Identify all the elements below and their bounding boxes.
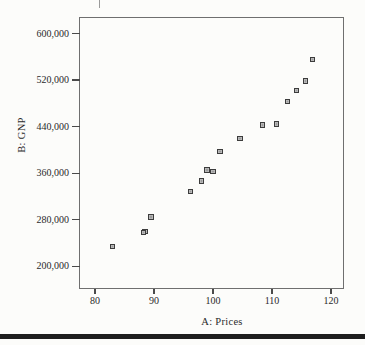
x-tick-mark bbox=[153, 289, 154, 295]
data-point-marker bbox=[110, 244, 115, 249]
x-tick-label: 110 bbox=[252, 295, 292, 307]
x-tick-mark bbox=[212, 289, 213, 295]
y-tick-label: 600,000 bbox=[16, 28, 69, 40]
data-point-marker bbox=[204, 167, 209, 172]
data-point-marker bbox=[210, 169, 215, 174]
x-tick-label: 90 bbox=[134, 295, 174, 307]
y-tick-mark bbox=[72, 79, 80, 80]
y-tick-label: 360,000 bbox=[16, 167, 69, 179]
y-tick-label: 200,000 bbox=[16, 260, 69, 272]
data-point-marker bbox=[199, 178, 204, 183]
data-point-marker bbox=[217, 149, 222, 154]
data-point-marker bbox=[237, 136, 242, 141]
y-tick-mark bbox=[72, 173, 80, 174]
y-tick-label: 520,000 bbox=[16, 74, 69, 86]
y-tick-mark bbox=[72, 33, 80, 34]
plot-frame bbox=[79, 17, 344, 289]
data-point-marker bbox=[310, 57, 315, 62]
y-tick-mark bbox=[72, 219, 80, 220]
data-point-marker bbox=[260, 122, 265, 127]
data-point-marker bbox=[285, 99, 290, 104]
scan-artifact-line bbox=[99, 0, 100, 8]
data-point-marker bbox=[188, 189, 193, 194]
x-axis-title: A: Prices bbox=[201, 316, 243, 327]
x-tick-mark bbox=[330, 289, 331, 295]
page-bottom-rule bbox=[0, 334, 365, 339]
y-axis-title: B: GNP bbox=[16, 117, 27, 152]
y-tick-mark bbox=[72, 126, 80, 127]
data-point-marker bbox=[141, 230, 146, 235]
data-point-marker bbox=[148, 214, 153, 219]
y-tick-label: 280,000 bbox=[16, 214, 69, 226]
y-tick-mark bbox=[72, 266, 80, 267]
scanned-figure-page: 200,000280,000360,000440,000520,000600,0… bbox=[0, 0, 365, 345]
data-point-marker bbox=[303, 78, 308, 83]
data-point-marker bbox=[274, 121, 279, 126]
x-tick-mark bbox=[94, 289, 95, 295]
x-tick-label: 120 bbox=[311, 295, 351, 307]
x-tick-mark bbox=[271, 289, 272, 295]
data-point-marker bbox=[294, 88, 299, 93]
x-tick-label: 100 bbox=[193, 295, 233, 307]
x-tick-label: 80 bbox=[75, 295, 115, 307]
